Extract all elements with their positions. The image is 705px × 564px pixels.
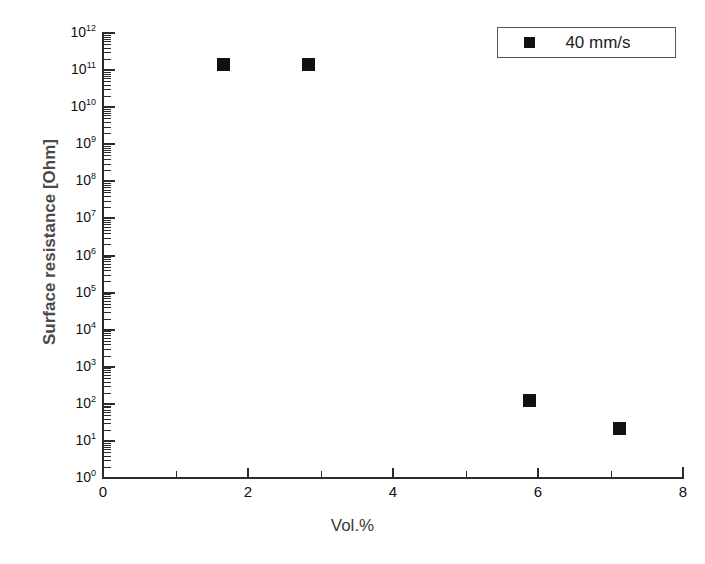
legend-entry-label: 40 mm/s: [535, 33, 675, 53]
y-tick-label: 101: [52, 433, 96, 447]
y-tick-label: 100: [52, 470, 96, 484]
y-tick-label: 109: [52, 136, 96, 150]
y-tick-label: 107: [52, 210, 96, 224]
data-point-marker: [300, 56, 317, 73]
x-tick-label: 2: [228, 484, 268, 499]
y-tick-label: 108: [52, 173, 96, 187]
y-tick-label: 106: [52, 248, 96, 262]
x-tick-label: 4: [373, 484, 413, 499]
x-tick-label: 0: [83, 484, 123, 499]
y-tick-label: 1010: [52, 99, 96, 113]
y-tick-label: 105: [52, 285, 96, 299]
plot-area: [103, 33, 683, 478]
data-point-marker: [521, 392, 538, 409]
y-tick-label: 102: [52, 396, 96, 410]
chart-figure: Surface resistance [Ohm] 100101102103104…: [0, 0, 705, 564]
legend-box: 40 mm/s: [497, 27, 676, 58]
data-point-marker: [611, 420, 628, 437]
data-point-marker: [215, 56, 232, 73]
y-tick-label: 1012: [52, 25, 96, 39]
x-axis-title: Vol.%: [0, 516, 705, 536]
square-marker-icon: [524, 37, 535, 48]
y-tick-label: 104: [52, 322, 96, 336]
y-tick-label: 103: [52, 359, 96, 373]
x-tick-label: 8: [663, 484, 703, 499]
x-tick-label: 6: [518, 484, 558, 499]
y-tick-label: 1011: [52, 62, 96, 76]
